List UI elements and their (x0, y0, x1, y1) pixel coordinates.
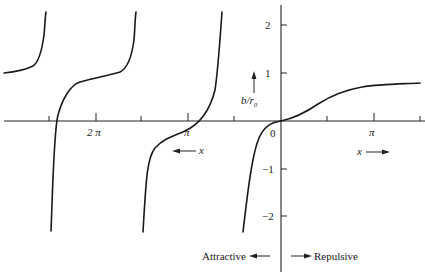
y-tick-label-1: 1 (265, 68, 271, 79)
repulsive-label: Repulsive (314, 251, 358, 262)
y-tick-label-neg2: −2 (262, 211, 274, 222)
x-tick-label-left-pi: π (184, 127, 190, 138)
y-tick-label-neg1: −1 (262, 164, 274, 175)
left-x-arrow (172, 149, 196, 154)
origin-label: 0 (270, 128, 276, 139)
y-tick-label-2: 2 (265, 20, 271, 31)
attractive-label: Attractive (202, 251, 246, 262)
y-direction-arrow (252, 71, 257, 93)
attractive-arrow (249, 254, 270, 259)
repulsive-arrow (291, 254, 312, 259)
attractive-branch-4 (4, 12, 46, 73)
left-x-label: x (199, 145, 204, 156)
x-tick-label-left-2pi: 2 π (87, 127, 101, 138)
right-x-label: x (357, 146, 362, 157)
chart-canvas (0, 0, 425, 275)
right-x-arrow (366, 150, 390, 155)
repulsive-curve (281, 83, 420, 121)
attractive-branch-2 (143, 12, 222, 232)
x-tick-label-right-pi: π (369, 127, 375, 138)
x-ticks (49, 113, 420, 121)
y-axis-label: b/r0 (241, 95, 257, 109)
